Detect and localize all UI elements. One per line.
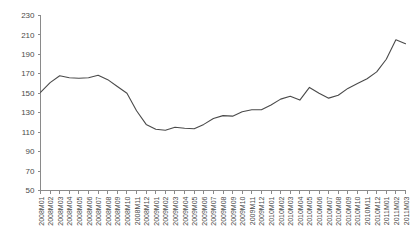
x-tick-label: 2009M11: [249, 196, 256, 225]
x-tick-label: 2011M02: [393, 196, 400, 225]
x-tick-label: 2008M03: [57, 196, 64, 225]
y-tick-label: 50: [26, 186, 35, 195]
x-tick-label: 2009M10: [239, 196, 246, 225]
x-tick-label: 2010M03: [287, 196, 294, 225]
x-tick-label: 2009M04: [182, 196, 189, 225]
x-tick-label: 2008M08: [105, 196, 112, 225]
x-tick-label: 2010M07: [326, 196, 333, 225]
x-tick-label: 2009M12: [258, 196, 265, 225]
x-tick-label: 2008M02: [47, 196, 54, 225]
x-tick-label: 2009M03: [172, 196, 179, 225]
x-tick-label: 2008M10: [124, 196, 131, 225]
x-tick-label: 2009M08: [220, 196, 227, 225]
x-tick-label: 2008M09: [114, 196, 121, 225]
x-tick-label: 2009M07: [210, 196, 217, 225]
x-tick-label: 2010M10: [354, 196, 361, 225]
x-tick-label: 2010M06: [316, 196, 323, 225]
x-tick-label: 2008M07: [95, 196, 102, 225]
y-tick-label: 70: [26, 167, 35, 176]
x-tick-label: 2008M05: [76, 196, 83, 225]
x-tick-label: 2010M08: [335, 196, 342, 225]
x-tick-label: 2011M01: [383, 196, 390, 225]
y-tick-label: 230: [21, 11, 35, 20]
y-tick-label: 130: [21, 108, 35, 117]
x-tick-label: 2008M04: [66, 196, 73, 225]
x-tick-label: 2008M06: [86, 196, 93, 225]
x-tick-label: 2009M02: [162, 196, 169, 225]
x-tick-label: 2009M05: [191, 196, 198, 225]
x-tick-label: 2010M05: [306, 196, 313, 225]
x-tick-label: 2010M02: [278, 196, 285, 225]
x-tick-label: 2008M01: [38, 196, 45, 225]
y-tick-label: 170: [21, 69, 35, 78]
x-tick-label: 2010M11: [364, 196, 371, 225]
x-tick-label: 2009M06: [201, 196, 208, 225]
x-tick-label: 2008M12: [143, 196, 150, 225]
x-tick-label: 2010M12: [374, 196, 381, 225]
x-tick-label: 2011M03: [403, 196, 410, 225]
y-tick-label: 90: [26, 147, 35, 156]
y-tick-label: 190: [21, 50, 35, 59]
line-chart-figure: 507090110130150170190210230 2008M012008M…: [0, 0, 413, 247]
y-tick-label: 150: [21, 89, 35, 98]
x-tick-label: 2010M09: [345, 196, 352, 225]
x-tick-label: 2008M11: [134, 196, 141, 225]
x-tick-label: 2009M01: [153, 196, 160, 225]
y-tick-label: 110: [22, 128, 35, 137]
x-tick-label: 2010M01: [268, 196, 275, 225]
x-tick-label: 2009M09: [230, 196, 237, 225]
chart-canvas: 507090110130150170190210230 2008M012008M…: [0, 0, 413, 247]
x-tick-label: 2010M04: [297, 196, 304, 225]
y-tick-label: 210: [21, 31, 35, 40]
